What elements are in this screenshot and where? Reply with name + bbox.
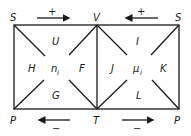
- label-K: K: [160, 63, 168, 74]
- label-J: J: [109, 63, 114, 74]
- label-L: L: [136, 90, 142, 101]
- diag-left-br: [69, 80, 97, 109]
- label-mu-sub: i: [140, 69, 142, 77]
- corner-top-right: S: [175, 12, 182, 23]
- diag-right-tr: [151, 25, 179, 55]
- corner-bottom-right: P: [174, 115, 181, 126]
- corner-top-left: S: [10, 12, 17, 23]
- diag-left-tl: [14, 25, 45, 56]
- label-H: H: [28, 63, 36, 74]
- diag-right-tl: [97, 25, 127, 55]
- diag-right-bl: [97, 80, 127, 109]
- corner-top-mid: V: [93, 12, 101, 23]
- sign-top-right: +: [137, 6, 145, 17]
- sign-top-left: +: [48, 6, 56, 17]
- label-n-sub: i: [57, 69, 59, 77]
- label-G: G: [52, 90, 60, 101]
- sign-bottom-left: −: [52, 123, 60, 134]
- corner-bottom-left: P: [10, 115, 17, 126]
- diag-left-bl: [14, 80, 44, 109]
- label-mu: μ: [132, 63, 139, 74]
- thermo-square-diagram: S V S P T P + + − − U H n i F G I J μ i …: [0, 0, 191, 136]
- label-F: F: [79, 63, 85, 74]
- diag-right-br: [152, 80, 179, 109]
- label-U: U: [52, 36, 60, 47]
- label-I: I: [136, 36, 139, 47]
- diag-left-tr: [69, 25, 97, 55]
- corner-bottom-mid: T: [93, 115, 100, 126]
- sign-bottom-right: −: [133, 123, 141, 134]
